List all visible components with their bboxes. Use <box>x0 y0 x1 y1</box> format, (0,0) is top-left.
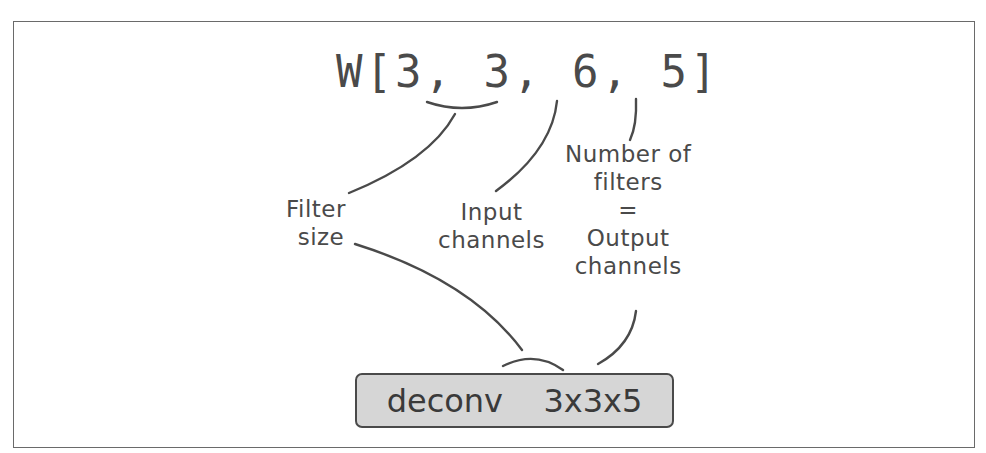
filter-size-brace <box>427 102 497 108</box>
input-channels-connector <box>496 101 557 191</box>
label-number-of-filters: Number of filters = Output channels <box>565 140 691 280</box>
deconv-layer-box: deconv 3x3x5 <box>355 373 674 428</box>
layer-arc <box>503 359 563 370</box>
label-line: Input <box>438 198 545 226</box>
output-channels-to-layer <box>598 311 636 364</box>
label-filter-size: Filter size <box>286 195 346 251</box>
label-line: size <box>296 223 346 251</box>
label-line: filters <box>565 168 691 196</box>
label-input-channels: Input channels <box>438 198 545 254</box>
label-line: Output <box>565 224 691 252</box>
label-line: Number of <box>565 140 691 168</box>
label-line: channels <box>438 226 545 254</box>
deconv-layer-label: deconv 3x3x5 <box>387 382 643 420</box>
filter-size-to-layer <box>355 244 522 350</box>
label-line: Filter <box>286 195 346 223</box>
filter-size-connector <box>349 114 455 193</box>
num-filters-connector <box>630 99 636 140</box>
label-line: channels <box>565 252 691 280</box>
label-line: = <box>565 196 691 224</box>
